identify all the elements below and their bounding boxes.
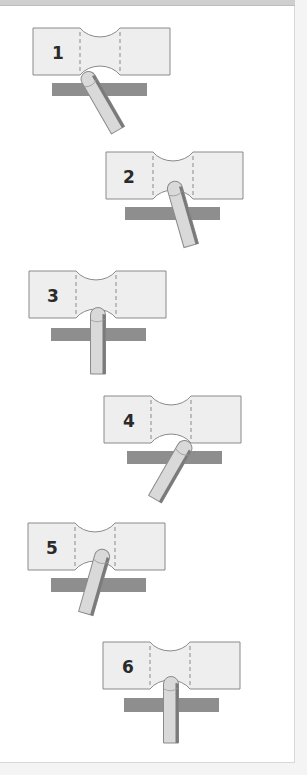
- step-label: 4: [123, 411, 135, 431]
- step-label: 2: [123, 167, 135, 187]
- step-6: 6: [103, 642, 240, 743]
- probe: [164, 677, 179, 744]
- step-2: 2: [106, 152, 243, 248]
- step-1: 1: [33, 28, 170, 134]
- probe: [78, 69, 124, 134]
- step-label: 6: [122, 657, 134, 677]
- step-label: 3: [47, 286, 59, 306]
- probe: [91, 308, 106, 375]
- step-4: 4: [104, 396, 241, 503]
- step-label: 5: [46, 538, 58, 558]
- step-label: 1: [52, 43, 64, 63]
- step-3: 3: [29, 271, 166, 374]
- diagram-canvas: 1 2 3 4 5: [0, 0, 307, 775]
- step-5: 5: [28, 523, 165, 616]
- probe: [149, 438, 195, 503]
